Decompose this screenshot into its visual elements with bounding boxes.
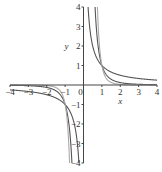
y-tick-label: −2 [71, 119, 81, 129]
curve-y-1-x-5-neg [10, 85, 70, 167]
x-tick-label: −3 [24, 87, 34, 97]
x-tick-label: 4 [155, 87, 160, 97]
x-tick-label: 1 [100, 87, 105, 97]
y-axis-label: y [64, 41, 69, 51]
function-plot: −4−3−2−101234 −4−3−2−11234 x y [0, 0, 162, 172]
x-tick-label: −1 [60, 87, 70, 97]
y-tick-label: 4 [76, 2, 81, 12]
x-tick-label: 3 [136, 87, 141, 97]
x-axis-label: x [117, 96, 122, 106]
x-tick-label: 0 [78, 87, 83, 97]
x-tick-label: −4 [5, 87, 15, 97]
chart-svg: −4−3−2−101234 −4−3−2−11234 x y [0, 0, 162, 172]
curve-y-1-x-5-pos [97, 3, 157, 85]
y-tick-label: −3 [71, 139, 81, 149]
y-tick-label: 1 [76, 61, 81, 71]
curve-y-1-x-3-pos [95, 4, 157, 85]
y-tick-label: 2 [76, 41, 81, 51]
y-tick-label: 3 [76, 22, 81, 32]
x-tick-label: −2 [42, 87, 52, 97]
x-tick-labels: −4−3−2−101234 [5, 85, 160, 97]
y-tick-label: −4 [71, 158, 81, 168]
y-tick-label: −1 [71, 100, 81, 110]
curve-y-1-x-3-neg [10, 85, 72, 166]
